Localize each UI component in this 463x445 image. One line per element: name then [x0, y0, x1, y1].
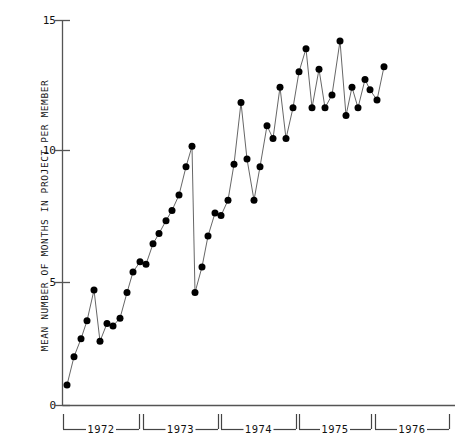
- data-point: [143, 261, 150, 268]
- data-point: [343, 112, 350, 119]
- data-point: [251, 197, 258, 204]
- data-point: [283, 135, 290, 142]
- year-label-1972: 1972: [81, 423, 121, 435]
- year-label-1975: 1975: [315, 423, 355, 435]
- data-point: [322, 104, 329, 111]
- data-point: [238, 99, 245, 106]
- data-point: [84, 317, 91, 324]
- data-point: [71, 353, 78, 360]
- data-point: [192, 289, 199, 296]
- data-point: [349, 84, 356, 91]
- data-point: [110, 322, 117, 329]
- data-point: [316, 66, 323, 73]
- data-point: [169, 207, 176, 214]
- data-point: [212, 210, 219, 217]
- data-point: [176, 192, 183, 199]
- data-point: [367, 86, 374, 93]
- data-point: [309, 104, 316, 111]
- data-point: [97, 338, 104, 345]
- data-point: [137, 258, 144, 265]
- data-point: [225, 197, 232, 204]
- data-point: [218, 212, 225, 219]
- data-point: [64, 382, 71, 389]
- year-label-1976: 1976: [392, 423, 432, 435]
- data-point: [150, 240, 157, 247]
- data-point: [163, 217, 170, 224]
- data-point: [374, 97, 381, 104]
- data-point: [270, 135, 277, 142]
- data-point: [231, 161, 238, 168]
- data-point: [199, 263, 206, 270]
- data-point: [277, 84, 284, 91]
- data-point: [156, 230, 163, 237]
- data-point: [78, 335, 85, 342]
- data-point: [329, 91, 336, 98]
- data-point: [205, 233, 212, 240]
- data-point: [257, 163, 264, 170]
- year-label-1974: 1974: [239, 423, 279, 435]
- data-point: [244, 156, 251, 163]
- data-point: [355, 104, 362, 111]
- chart-container: MEAN NUMBER OF MONTHS IN PROJECT PER MEM…: [0, 0, 463, 445]
- data-point: [381, 63, 388, 70]
- data-point: [303, 45, 310, 52]
- data-point: [124, 289, 131, 296]
- data-point: [290, 104, 297, 111]
- data-point: [296, 68, 303, 75]
- data-point: [91, 287, 98, 294]
- data-point: [130, 269, 137, 276]
- data-point: [264, 122, 271, 129]
- series-polyline: [67, 41, 384, 385]
- y-axis: [55, 20, 70, 406]
- data-point: [337, 38, 344, 45]
- data-point: [362, 76, 369, 83]
- data-series-points: [64, 38, 388, 389]
- plot-area: [0, 0, 463, 445]
- year-label-1973: 1973: [161, 423, 201, 435]
- data-series-line: [67, 41, 384, 385]
- data-point: [117, 315, 124, 322]
- data-point: [183, 163, 190, 170]
- data-point: [189, 143, 196, 150]
- data-point: [104, 320, 111, 327]
